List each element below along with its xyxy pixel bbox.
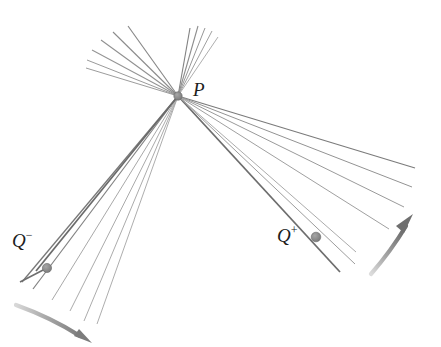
ray-ll-thin-1	[52, 96, 178, 300]
ray-ll-thin-2	[70, 96, 178, 311]
label-point-q-minus-base: Q	[12, 230, 26, 251]
point-p-node	[174, 92, 182, 100]
ray-lr-1	[178, 96, 415, 168]
ray-ul-4	[101, 40, 178, 96]
label-point-q-minus: Q−	[12, 231, 33, 250]
arrow-bottom-left-head	[74, 329, 92, 343]
arrow-right-head	[396, 214, 413, 233]
ray-lr-principal	[178, 96, 340, 272]
ray-ul-2	[87, 60, 178, 96]
label-point-q-plus-base: Q	[277, 225, 291, 246]
ray-ll-thin-4	[97, 96, 178, 324]
ray-lr-5	[178, 96, 356, 252]
point-q-plus-node	[311, 232, 321, 242]
ray-lr-secondary	[178, 96, 355, 264]
point-q-minus-node	[42, 263, 51, 272]
ray-diagram-svg	[0, 0, 441, 347]
label-point-q-minus-sup: −	[26, 228, 33, 242]
label-point-p: P	[193, 80, 205, 99]
ray-ul-3	[92, 50, 178, 96]
ray-ll-principal	[36, 96, 178, 271]
label-point-q-plus-sup: +	[291, 223, 298, 237]
ray-ll-thin-3	[84, 96, 178, 321]
lower-right-fan	[178, 96, 415, 272]
ray-ul-6	[128, 26, 178, 96]
arrow-right	[371, 214, 413, 274]
ray-ll-mid-1	[33, 96, 178, 289]
lower-left-fan	[20, 96, 178, 324]
arrow-bottom-left	[16, 305, 92, 343]
label-point-p-base: P	[193, 79, 205, 100]
ray-lr-3	[178, 96, 404, 207]
figure-canvas: P Q− Q+	[0, 0, 441, 347]
ray-lr-2	[178, 96, 412, 187]
ray-lr-4	[178, 96, 389, 229]
label-point-q-plus: Q+	[277, 226, 298, 245]
upper-left-fan	[86, 26, 178, 96]
arrow-right-shaft	[371, 226, 406, 274]
